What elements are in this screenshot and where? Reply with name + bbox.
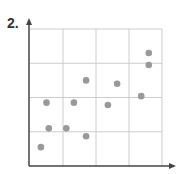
- data-point: [83, 77, 90, 84]
- data-points: [38, 50, 153, 151]
- scatter-plot: [0, 0, 182, 174]
- data-point: [43, 99, 50, 106]
- data-point: [46, 125, 53, 132]
- data-point: [114, 81, 121, 88]
- data-point: [63, 125, 70, 132]
- data-point: [138, 93, 145, 100]
- data-point: [146, 50, 153, 57]
- data-point: [71, 99, 78, 106]
- data-point: [146, 62, 153, 69]
- data-point: [105, 102, 112, 109]
- data-point: [83, 133, 90, 140]
- axes: [26, 18, 176, 169]
- x-axis-arrow-icon: [169, 163, 176, 169]
- data-point: [38, 144, 45, 151]
- y-axis-arrow-icon: [26, 18, 32, 25]
